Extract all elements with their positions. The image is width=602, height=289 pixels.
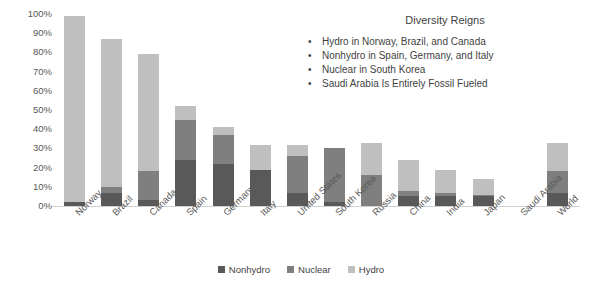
bar-slot <box>242 14 279 206</box>
bar-segment-hydro <box>138 54 159 171</box>
y-axis-tick-label: 10% <box>6 182 52 192</box>
stacked-bar[interactable] <box>175 106 196 206</box>
y-axis-tick-label: 30% <box>6 143 52 153</box>
bar-segment-hydro <box>547 143 568 172</box>
bullet-icon: • <box>308 63 312 77</box>
bar-slot <box>56 14 93 206</box>
legend-label: Nonhydro <box>229 264 270 275</box>
annotation-text: Saudi Arabia Is Entirely Fossil Fueled <box>322 78 488 89</box>
legend-item-nuclear[interactable]: Nuclear <box>287 264 331 275</box>
y-axis-tick-label: 60% <box>6 86 52 96</box>
annotation-text: Nuclear in South Korea <box>322 64 425 75</box>
bar-segment-nuclear <box>175 120 196 160</box>
bullet-icon: • <box>308 35 312 49</box>
x-axis-line <box>52 206 580 207</box>
y-axis: 100%90%80%70%60%50%40%30%20%10%0% <box>0 0 52 289</box>
bar-segment-hydro <box>250 145 271 170</box>
y-axis-tick-label: 20% <box>6 163 52 173</box>
bar-segment-hydro <box>175 106 196 119</box>
chart-title: Diversity Reigns <box>300 14 590 26</box>
x-label-slot: World <box>539 208 576 268</box>
x-label-slot: Norway <box>56 208 93 268</box>
bar-segment-hydro <box>101 39 122 187</box>
y-axis-tick-label: 70% <box>6 67 52 77</box>
bar-segment-hydro <box>64 16 85 202</box>
x-label-slot: China <box>390 208 427 268</box>
annotation-item: •Nuclear in South Korea <box>300 63 590 77</box>
stacked-bar[interactable] <box>138 54 159 206</box>
bar-slot <box>205 14 242 206</box>
x-label-slot: Japan <box>465 208 502 268</box>
x-label-slot: South Korea <box>316 208 353 268</box>
annotation-item: •Saudi Arabia Is Entirely Fossil Fueled <box>300 77 590 91</box>
annotation-block: Diversity Reigns •Hydro in Norway, Brazi… <box>300 14 590 91</box>
y-axis-tick-label: 50% <box>6 105 52 115</box>
y-axis-tick-label: 80% <box>6 47 52 57</box>
x-axis-labels: NorwayBrazilCanadaSpainGermanyItalyUnite… <box>56 208 576 268</box>
legend-item-hydro[interactable]: Hydro <box>348 264 384 275</box>
bar-segment-hydro <box>361 143 382 176</box>
legend-swatch-icon <box>348 266 355 273</box>
bar-segment-nuclear <box>287 156 308 192</box>
annotation-item: •Hydro in Norway, Brazil, and Canada <box>300 35 590 49</box>
x-label-slot: United States <box>279 208 316 268</box>
x-label-slot: India <box>427 208 464 268</box>
y-axis-tick-label: 40% <box>6 124 52 134</box>
legend-item-nonhydro[interactable]: Nonhydro <box>218 264 270 275</box>
y-axis-tick-label: 0% <box>6 201 52 211</box>
annotation-text: Nonhydro in Spain, Germany, and Italy <box>322 50 494 61</box>
bar-segment-nuclear <box>138 171 159 200</box>
x-label-slot: Germany <box>205 208 242 268</box>
legend-label: Nuclear <box>298 264 331 275</box>
bullet-icon: • <box>308 77 312 91</box>
bullet-icon: • <box>308 49 312 63</box>
x-label-slot: Spain <box>167 208 204 268</box>
bar-segment-hydro <box>287 145 308 157</box>
bar-slot <box>93 14 130 206</box>
bar-segment-nuclear <box>213 135 234 164</box>
y-axis-tick-label: 100% <box>6 9 52 19</box>
stacked-bar[interactable] <box>101 39 122 206</box>
bar-segment-hydro <box>398 160 419 191</box>
bar-segment-hydro <box>473 179 494 194</box>
stacked-bar[interactable] <box>250 145 271 206</box>
legend-swatch-icon <box>287 266 294 273</box>
bar-slot <box>130 14 167 206</box>
x-label-slot: Brazil <box>93 208 130 268</box>
legend-swatch-icon <box>218 266 225 273</box>
x-label-slot: Italy <box>242 208 279 268</box>
chart-legend: NonhydroNuclearHydro <box>0 264 602 275</box>
annotation-item: •Nonhydro in Spain, Germany, and Italy <box>300 49 590 63</box>
stacked-bar[interactable] <box>64 16 85 206</box>
bar-segment-hydro <box>435 170 456 193</box>
legend-label: Hydro <box>359 264 384 275</box>
stacked-bar[interactable] <box>287 145 308 206</box>
bar-segment-hydro <box>213 127 234 135</box>
x-label-slot: Russia <box>353 208 390 268</box>
x-label-slot: Saudi Arabia <box>502 208 539 268</box>
stacked-bar[interactable] <box>213 127 234 206</box>
annotation-text: Hydro in Norway, Brazil, and Canada <box>322 36 486 47</box>
bar-slot <box>167 14 204 206</box>
chart-container: 100%90%80%70%60%50%40%30%20%10%0% Norway… <box>0 0 602 289</box>
annotation-list: •Hydro in Norway, Brazil, and Canada•Non… <box>300 35 590 91</box>
x-label-slot: Canada <box>130 208 167 268</box>
y-axis-tick-label: 90% <box>6 28 52 38</box>
